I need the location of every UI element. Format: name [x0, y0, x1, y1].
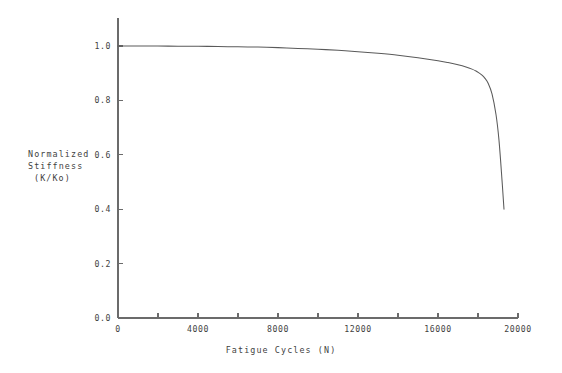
y-axis — [118, 18, 123, 318]
x-tick-label: 16000 — [424, 324, 452, 334]
y-axis-title: Normalized Stiffness (K/Ko) — [28, 148, 89, 184]
y-tick-label: 0.0 — [94, 313, 111, 323]
y-tick-label: 0.8 — [94, 95, 111, 105]
y-tick-label: 1.0 — [94, 41, 111, 51]
y-tick-label: 0.6 — [94, 150, 111, 160]
data-series-normalized-stiffness — [118, 46, 504, 209]
x-tick-label: 0 — [115, 324, 121, 334]
y-axis-title-line-2: Stiffness — [28, 160, 89, 172]
y-axis-title-line-1: Normalized — [28, 148, 89, 160]
fatigue-stiffness-chart: 0.00.20.40.60.81.0 040008000120001600020… — [0, 0, 562, 373]
x-axis-tick-labels: 040008000120001600020000 — [115, 324, 532, 334]
y-tick-label: 0.4 — [94, 204, 111, 214]
x-tick-label: 4000 — [187, 324, 209, 334]
y-axis-tick-labels: 0.00.20.40.60.81.0 — [94, 41, 111, 323]
x-tick-label: 8000 — [267, 324, 289, 334]
y-tick-label: 0.2 — [94, 259, 111, 269]
stiffness-degradation-curve — [118, 46, 504, 209]
y-axis-title-line-3: (K/Ko) — [28, 172, 89, 184]
x-tick-label: 12000 — [344, 324, 372, 334]
x-tick-label: 20000 — [504, 324, 532, 334]
chart-plot-area: 0.00.20.40.60.81.0 040008000120001600020… — [0, 0, 562, 373]
x-axis — [118, 313, 518, 318]
x-axis-title: Fatigue Cycles (N) — [0, 345, 562, 355]
